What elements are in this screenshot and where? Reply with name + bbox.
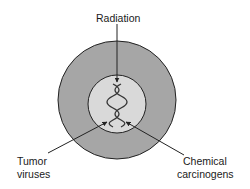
label-viruses: viruses [17,168,50,180]
label-tumor: Tumor [17,155,47,167]
label-carcinogens: carcinogens [177,168,234,180]
label-chemical: Chemical [183,155,227,167]
nucleus-circle [88,75,146,133]
label-radiation: Radiation [96,12,140,24]
